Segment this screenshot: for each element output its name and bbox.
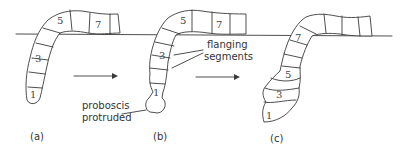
segment-label: 7 <box>295 32 301 43</box>
segment-label: 3 <box>276 89 282 100</box>
panel-c-worm: 1 3 5 7 <box>263 14 372 122</box>
flanging-label-line1: flanging <box>207 39 248 50</box>
ground-surface-line <box>16 34 392 36</box>
panel-a-worm: 1 3 5 7 <box>26 10 120 104</box>
segment-label: 7 <box>95 19 101 30</box>
panel-a-caption: (a) <box>30 131 44 142</box>
flanging-leader-line <box>174 50 203 55</box>
segment-label: 5 <box>57 15 63 26</box>
segment-label: 3 <box>35 53 41 64</box>
flanging-label-line2: segments <box>204 51 253 62</box>
segment-label: 1 <box>266 110 272 121</box>
panel-b-caption: (b) <box>153 131 167 142</box>
arrow-right-icon <box>196 74 240 80</box>
segment-label: 1 <box>153 87 159 98</box>
segment-label: 5 <box>285 69 291 80</box>
proboscis-label-line1: proboscis <box>82 100 130 111</box>
segment-label: 7 <box>216 19 222 30</box>
segment-label: 1 <box>30 89 36 100</box>
segment-label: 3 <box>159 50 165 61</box>
panel-c-caption: (c) <box>270 133 283 144</box>
segment-label: 5 <box>180 15 186 26</box>
flanging-leader-line <box>172 53 203 68</box>
worm-burrowing-diagram: 1 3 5 7 (a) proboscis protruded 1 3 5 7 … <box>0 0 404 155</box>
arrow-right-icon <box>74 73 118 79</box>
